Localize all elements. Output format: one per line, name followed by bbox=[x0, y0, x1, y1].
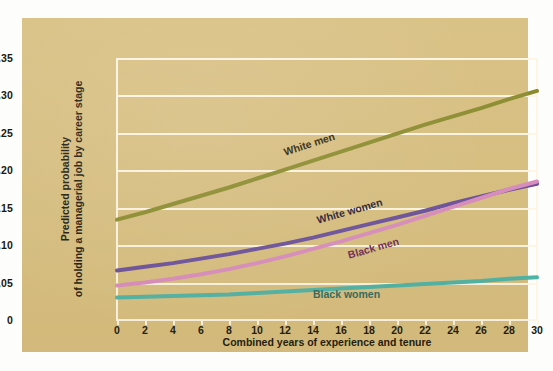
y-tick-label: 0 bbox=[7, 314, 13, 326]
x-tick-label: 12 bbox=[279, 324, 291, 336]
y-tick-label: 0.30 bbox=[0, 89, 13, 101]
y-tick-label: 0.35 bbox=[0, 52, 13, 64]
chart-panel: Predicted probability of holding a manag… bbox=[22, 18, 528, 352]
x-tick-label: 18 bbox=[363, 324, 375, 336]
chart-figure: Predicted probability of holding a manag… bbox=[0, 0, 553, 371]
x-axis-label: Combined years of experience and tenure bbox=[117, 336, 537, 348]
x-tick-label: 24 bbox=[447, 324, 459, 336]
x-tick-label: 14 bbox=[307, 324, 319, 336]
series-line-black-women bbox=[117, 277, 537, 297]
x-tick-label: 10 bbox=[251, 324, 263, 336]
series-line-white-women bbox=[117, 184, 537, 271]
y-tick-label: 0.05 bbox=[0, 277, 13, 289]
x-tick-label: 6 bbox=[198, 324, 204, 336]
x-tick-label: 2 bbox=[142, 324, 148, 336]
y-axis-label: Predicted probability of holding a manag… bbox=[52, 58, 92, 320]
y-tick-label: 0.20 bbox=[0, 164, 13, 176]
x-tick-label: 20 bbox=[391, 324, 403, 336]
x-tick-label: 16 bbox=[335, 324, 347, 336]
x-tick-label: 30 bbox=[531, 324, 543, 336]
x-tick-label: 28 bbox=[503, 324, 515, 336]
x-tick-label: 22 bbox=[419, 324, 431, 336]
x-tick-label: 4 bbox=[170, 324, 176, 336]
x-tick-label: 8 bbox=[226, 324, 232, 336]
y-axis-label-line1: Predicted probability bbox=[59, 137, 71, 241]
y-axis-label-line2: of holding a managerial job by career st… bbox=[72, 81, 84, 297]
y-tick-label: 0.25 bbox=[0, 127, 13, 139]
x-tick-label: 0 bbox=[114, 324, 120, 336]
y-tick-label: 0.10 bbox=[0, 239, 13, 251]
plot-area: 00.050.100.150.200.250.300.35 0246810121… bbox=[117, 58, 537, 320]
y-tick-label: 0.15 bbox=[0, 202, 13, 214]
series-lines bbox=[117, 58, 537, 320]
x-tick-label: 26 bbox=[475, 324, 487, 336]
